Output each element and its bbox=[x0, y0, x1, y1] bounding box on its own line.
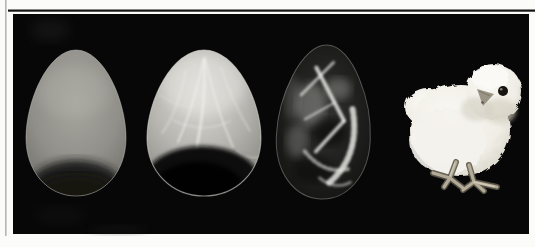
chick-cheek-fluff bbox=[484, 98, 516, 124]
chick-eye-highlight bbox=[500, 88, 503, 91]
chick-eye bbox=[498, 86, 508, 96]
left-margin-rule bbox=[5, 0, 7, 236]
chick-development-figure bbox=[0, 0, 535, 247]
figure-page bbox=[0, 0, 535, 247]
egg1-glow bbox=[38, 66, 110, 118]
chick-crown-highlight bbox=[471, 65, 509, 89]
top-rule bbox=[8, 10, 535, 12]
chick-beak-tip bbox=[481, 101, 484, 104]
